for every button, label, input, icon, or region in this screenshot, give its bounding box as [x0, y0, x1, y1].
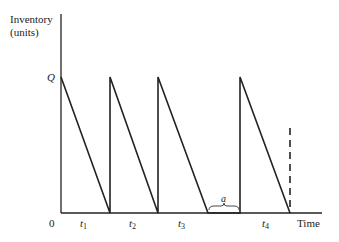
svg-text:t3: t3 [178, 217, 185, 231]
interval-label-t1: t1 [80, 217, 87, 231]
q-tick-label: Q [47, 71, 55, 83]
inventory-diagram: Inventory (units) Q 0 Time a t1 t2 t3 t4 [0, 0, 339, 242]
x-axis-label: Time [297, 217, 320, 229]
gap-label: a [221, 193, 226, 204]
interval-label-t3: t3 [178, 217, 185, 231]
svg-text:t4: t4 [262, 217, 269, 231]
svg-text:t2: t2 [129, 217, 136, 231]
interval-label-t4: t4 [262, 217, 269, 231]
origin-label: 0 [49, 217, 55, 229]
svg-text:t1: t1 [80, 217, 87, 231]
inventory-line [61, 77, 290, 213]
y-axis-label-line1: Inventory [10, 13, 53, 25]
y-axis-label-line2: (units) [10, 26, 39, 39]
gap-brace [209, 203, 239, 210]
interval-label-t2: t2 [129, 217, 136, 231]
